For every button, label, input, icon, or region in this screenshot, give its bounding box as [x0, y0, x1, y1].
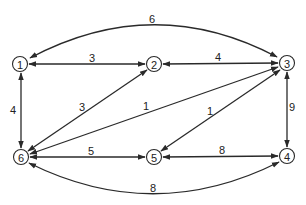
edge-5-3	[161, 70, 280, 151]
weight-5-4: 8	[219, 144, 225, 156]
weight-3-4: 9	[289, 101, 295, 113]
node-5: 5	[147, 150, 162, 165]
edge-2-3	[163, 63, 278, 64]
weight-6-3: 1	[143, 100, 149, 112]
node-4: 4	[280, 149, 295, 164]
node-2: 2	[147, 57, 162, 72]
node-3: 3	[280, 56, 295, 71]
edge-6-2	[28, 70, 147, 151]
weight-1-2: 3	[89, 52, 95, 64]
node-6: 6	[14, 150, 29, 165]
edge-5-4	[163, 156, 278, 157]
node-1-label: 1	[17, 59, 23, 71]
node-1: 1	[13, 57, 28, 72]
edge-6-3	[30, 67, 278, 154]
weight-6-2: 3	[79, 101, 85, 113]
edges	[21, 25, 287, 194]
node-6-label: 6	[18, 152, 24, 164]
node-2-label: 2	[151, 59, 157, 71]
graph-diagram: 6 3 4 4 9 3 1 1 5 8 8 1 2 3 4 5	[0, 0, 306, 205]
weight-6-4: 8	[150, 182, 156, 194]
edge-1-3	[30, 25, 277, 58]
weight-5-3: 1	[207, 105, 213, 117]
weight-2-3: 4	[215, 51, 221, 63]
weight-6-5: 5	[88, 145, 94, 157]
weight-1-3: 6	[149, 13, 155, 25]
weight-1-6: 4	[10, 104, 16, 116]
node-5-label: 5	[151, 152, 157, 164]
weight-labels: 6 3 4 4 9 3 1 1 5 8 8	[10, 13, 295, 194]
node-4-label: 4	[284, 151, 290, 163]
node-3-label: 3	[284, 58, 290, 70]
